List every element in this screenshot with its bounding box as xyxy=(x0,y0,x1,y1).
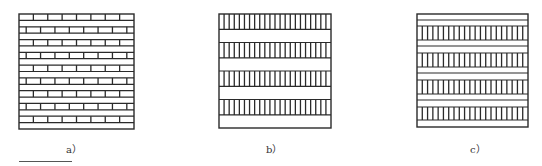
footnote-rule xyxy=(19,161,72,162)
stripe-pattern-c xyxy=(0,0,542,140)
panel-label-c: c） xyxy=(470,141,486,156)
panel-c: c） xyxy=(0,0,542,166)
